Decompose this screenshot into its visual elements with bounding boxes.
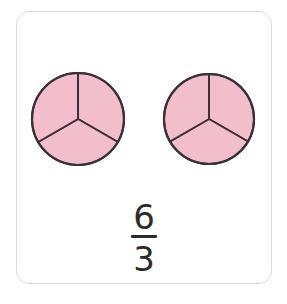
fraction-numerator: 6 bbox=[113, 200, 175, 232]
fraction-label: 6 3 bbox=[113, 200, 175, 274]
screen: 6 3 bbox=[0, 0, 287, 304]
fraction-denominator: 3 bbox=[113, 242, 175, 274]
